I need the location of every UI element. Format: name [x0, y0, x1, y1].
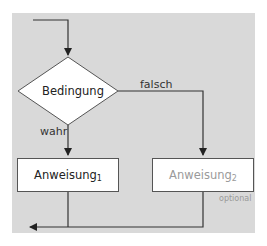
false-branch-label: falsch [140, 78, 172, 91]
false-branch-arrow [118, 91, 203, 155]
statement-2-box: Anweisung2 [152, 158, 254, 192]
statement-2-subscript: 2 [232, 174, 237, 183]
entry-arrow [33, 20, 68, 55]
decision-label: Bedingung [42, 84, 104, 98]
flow-connectors [0, 0, 267, 246]
exit-arrow [30, 192, 203, 227]
statement-1-label: Anweisung [34, 168, 97, 182]
statement-2-label: Anweisung [169, 168, 232, 182]
true-branch-label: wahr [40, 125, 67, 138]
statement-1-subscript: 1 [97, 174, 102, 183]
optional-note: optional [219, 194, 251, 203]
statement-1-box: Anweisung1 [17, 158, 119, 192]
